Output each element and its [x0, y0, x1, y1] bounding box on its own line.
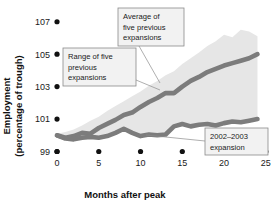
- y-tick-dot: [54, 52, 59, 57]
- x-tick-label: 25: [261, 158, 271, 168]
- callout-text-range-callout: previous: [68, 63, 97, 72]
- employment-expansion-chart: 99101103105107 0510152025 Average offive…: [0, 0, 274, 207]
- callout-text-expansion-callout: expansion: [210, 143, 245, 152]
- x-tick-label: 5: [96, 158, 101, 168]
- y-tick-dot: [54, 116, 59, 121]
- y-tick-dot: [54, 19, 59, 24]
- x-tick-label: 10: [136, 158, 146, 168]
- x-tick-dot: [54, 149, 59, 154]
- y-axis-title-line2: (percentage of trough): [13, 55, 24, 156]
- x-axis-title: Months after peak: [84, 189, 166, 200]
- callout-text-expansion-callout: 2002–2003: [210, 132, 248, 141]
- callout-text-average-callout: Average of: [123, 12, 160, 21]
- chart-svg: 99101103105107 0510152025 Average offive…: [0, 0, 274, 207]
- callout-text-range-callout: expansions: [68, 73, 107, 82]
- y-tick-label: 103: [35, 82, 50, 92]
- y-tick-dot: [54, 84, 59, 89]
- x-tick-label: 15: [177, 158, 187, 168]
- x-tick-label: 0: [55, 158, 60, 168]
- y-tick-label: 105: [35, 50, 50, 60]
- y-tick-label: 107: [35, 17, 50, 27]
- x-tick-dot: [96, 149, 101, 154]
- x-tick-dot: [180, 149, 185, 154]
- y-tick-label: 101: [35, 114, 50, 124]
- x-tick-label: 20: [219, 158, 229, 168]
- x-tick-dot: [138, 149, 143, 154]
- callout-text-average-callout: five previous: [123, 23, 166, 32]
- callout-text-average-callout: expansions: [123, 33, 162, 42]
- callout-text-range-callout: Range of five: [68, 52, 113, 61]
- y-tick-label: 99: [40, 147, 50, 157]
- y-axis-title-line1: Employment: [1, 77, 12, 135]
